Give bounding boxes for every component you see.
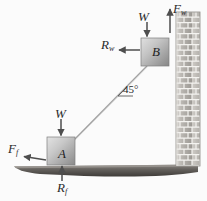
brick-wall	[176, 12, 200, 166]
block-a-label: A	[58, 146, 66, 162]
force-label-fw: Fw	[173, 2, 186, 17]
force-label-rw: Rw	[101, 38, 114, 53]
ground-surface	[14, 164, 198, 176]
connecting-rod	[73, 66, 148, 142]
angle-label: 45°	[123, 84, 138, 95]
block-b-label: B	[152, 44, 160, 60]
force-label-ff: Ff	[8, 142, 18, 157]
diagram-canvas	[0, 0, 207, 201]
force-label-rf: Rf	[57, 181, 67, 196]
force-label-weight-a: W	[55, 107, 66, 120]
force-arrow-ff	[24, 157, 46, 161]
force-label-weight-b: W	[138, 10, 149, 23]
free-body-diagram: W Fw Rw 45° W Ff Rf B A	[0, 0, 207, 201]
